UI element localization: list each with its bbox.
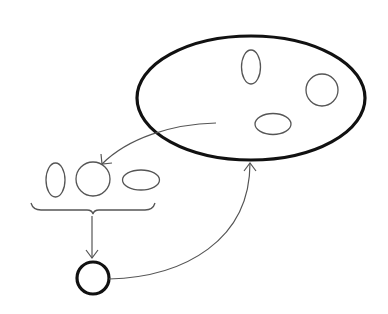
large-set-group [137,36,365,160]
sample-group-brace [31,203,155,214]
set-member-circle [306,74,338,106]
large-set-ellipse [137,36,365,160]
feedback-arrow [109,163,250,279]
diagram-canvas [0,0,388,314]
sample-horizontal-ellipse [123,170,160,190]
set-member-vertical-ellipse [242,50,261,84]
set-member-horizontal-ellipse [255,114,291,135]
sample-circle [76,162,110,196]
edges [86,123,256,279]
result-circle [77,262,109,294]
sample-vertical-ellipse [46,163,65,197]
sample-arrow [102,123,216,164]
sample-group [31,162,160,214]
